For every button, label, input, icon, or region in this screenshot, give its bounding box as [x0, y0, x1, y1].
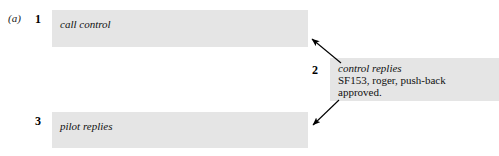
arrow-layer: [0, 0, 499, 156]
arrow-step2-to-step3: [313, 100, 339, 125]
arrow-step1-to-step2: [312, 39, 341, 63]
figure-container: (a) 1 call control 2 control replies SF1…: [0, 0, 499, 156]
